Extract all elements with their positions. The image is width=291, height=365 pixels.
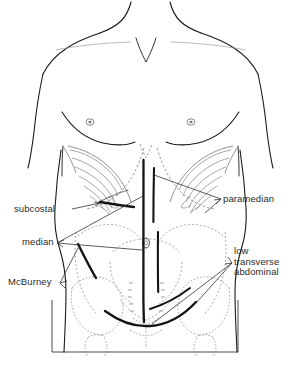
label-median: median xyxy=(22,237,54,248)
body-outline xyxy=(28,2,273,352)
label-mcburney: McBurney xyxy=(8,277,52,288)
incision-paramedian xyxy=(153,168,158,292)
label-low-transverse-abdominal: low transverse abdominal xyxy=(234,246,279,278)
incision-mcburney xyxy=(78,244,96,278)
label-low-transverse-line1: low xyxy=(234,246,279,257)
label-paramedian: paramedian xyxy=(223,194,274,205)
torso-diagram xyxy=(0,0,291,365)
nipple-markers xyxy=(86,119,195,125)
spine-tick-marks xyxy=(128,283,165,311)
incision-low-transverse-abdominal xyxy=(105,288,196,326)
pelvis-bones xyxy=(71,277,230,356)
incision-median xyxy=(143,160,144,322)
rib-cage xyxy=(68,144,233,214)
label-subcostal: subcostal xyxy=(14,204,55,215)
abdominal-contours xyxy=(75,224,226,320)
label-low-transverse-line3: abdominal xyxy=(234,267,279,278)
illustration-page: subcostal median McBurney paramedian low… xyxy=(0,0,291,365)
